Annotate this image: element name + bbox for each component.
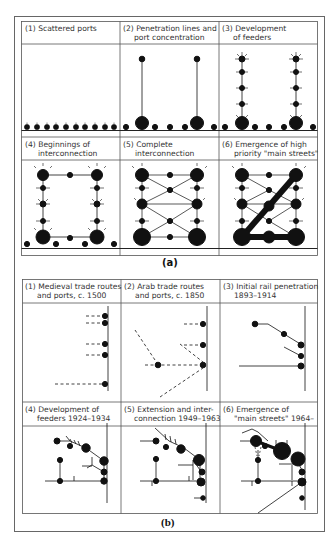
panel-b6-drawing	[240, 423, 306, 513]
panel-a4-title-line2: interconnection	[38, 149, 97, 158]
panel-a4-drawing	[24, 163, 116, 247]
panel-b1-drawing	[55, 306, 108, 391]
part-a-caption: (a)	[162, 257, 178, 268]
panel-a4-title: (4) Beginnings of	[25, 140, 90, 149]
panel-b1-title-line2: and ports, c. 1500	[37, 291, 106, 300]
panel-b3-title-line2: 1893–1914	[234, 291, 276, 300]
panel-b6-title-line2: "main streets" 1964–	[234, 414, 314, 423]
panel-b5-title: (5) Extension and inter-	[124, 405, 214, 414]
panel-a6-title: (6) Emergence of high	[222, 140, 307, 149]
panel-b6-title: (6) Emergence of	[223, 405, 289, 414]
part-b-caption: (b)	[161, 516, 174, 528]
panel-b2-drawing	[135, 306, 207, 397]
panel-b4-drawing	[45, 423, 108, 503]
part-b-grid	[23, 280, 318, 514]
panel-b2-title-line2: and ports, c. 1850	[135, 291, 204, 300]
panel-a1-title: (1) Scattered ports	[25, 24, 97, 33]
panel-b5-title-line2: connection 1949–1963	[134, 414, 221, 423]
panel-b5-drawing	[140, 423, 206, 503]
panel-b4-title: (4) Development of	[25, 405, 99, 414]
panel-a2-title-line2: port concentration	[134, 33, 205, 42]
panel-a3-drawing	[222, 52, 315, 130]
panel-a5-title-line2: interconnection	[135, 149, 194, 158]
panel-a6-drawing	[232, 163, 306, 246]
panel-a2-title: (2) Penetration lines and	[123, 24, 217, 33]
panel-b3-title: (3) Initial rail penetration	[223, 282, 318, 291]
panel-b3-drawing	[239, 306, 305, 391]
panel-b4-title-line2: feeders 1924–1934	[37, 414, 110, 423]
panel-b1-title: (1) Medieval trade routes	[25, 282, 121, 291]
panel-a5-title: (5) Complete	[123, 140, 173, 149]
panel-a2-drawing	[123, 56, 216, 129]
transport-network-diagram	[0, 0, 336, 543]
panel-b2-title: (2) Arab trade routes	[124, 282, 204, 291]
panel-a3-title: (3) Development	[222, 24, 286, 33]
panel-a1-drawing	[24, 123, 116, 130]
panel-a3-title-line2: of feeders	[233, 33, 271, 42]
panel-a5-drawing	[132, 163, 207, 246]
panel-a6-title-line2: priority "main streets"	[234, 149, 318, 158]
